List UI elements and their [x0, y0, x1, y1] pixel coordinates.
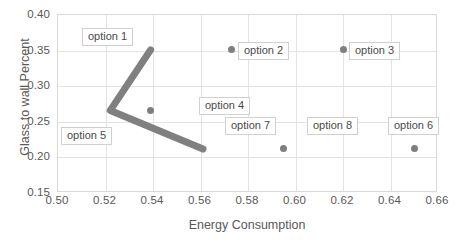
x-tick-label: 0.50: [34, 194, 80, 206]
data-label-option-3: option 3: [349, 42, 400, 60]
data-label-option-8: option 8: [307, 117, 358, 135]
data-label-option-4: option 4: [199, 97, 250, 115]
data-point-option-7: [280, 145, 287, 152]
data-label-option-1: option 1: [82, 28, 133, 46]
x-tick-label: 0.54: [129, 194, 175, 206]
data-label-option-7: option 7: [225, 117, 276, 135]
x-tick-label: 0.62: [319, 194, 365, 206]
data-label-option-5: option 5: [61, 127, 112, 145]
x-tick-label: 0.52: [82, 194, 128, 206]
data-label-option-6: option 6: [388, 117, 439, 135]
data-label-option-2: option 2: [238, 42, 289, 60]
data-point-option-6: [411, 145, 418, 152]
x-tick-label: 0.56: [177, 194, 223, 206]
data-point-option-4: [147, 107, 154, 114]
data-point-option-3: [340, 46, 347, 53]
x-tick-label: 0.66: [414, 194, 456, 206]
x-tick-label: 0.58: [224, 194, 270, 206]
x-tick-label: 0.64: [367, 194, 413, 206]
chart-container: option 1 option 2 option 3 option 4 opti…: [0, 0, 456, 246]
y-axis-title: Glass to wall Percent: [18, 17, 32, 177]
x-axis-title: Energy Consumption: [57, 218, 437, 232]
x-tick-label: 0.60: [272, 194, 318, 206]
